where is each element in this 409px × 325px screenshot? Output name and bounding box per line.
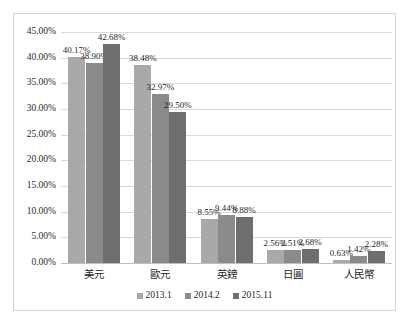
gridline (61, 263, 392, 264)
y-axis-tick-label: 20.00% (27, 156, 56, 166)
legend-swatch-icon (185, 293, 191, 299)
y-axis-tick-label: 40.00% (27, 53, 56, 63)
y-axis-tick-label: 0.00% (31, 258, 56, 268)
bar[interactable] (368, 251, 385, 263)
chart-plot-wrapper: 0.00%5.00%10.00%15.00%20.00%25.00%30.00%… (14, 14, 395, 310)
y-axis-tick-label: 35.00% (27, 79, 56, 89)
y-axis-tick-label: 5.00% (31, 233, 56, 243)
legend-item[interactable]: 2015.11 (233, 291, 273, 301)
plot-area: 0.00%5.00%10.00%15.00%20.00%25.00%30.00%… (61, 32, 392, 263)
y-axis-tick-label: 45.00% (27, 27, 56, 37)
category-label-2: 英鎊 (217, 269, 237, 280)
bar[interactable] (350, 256, 367, 263)
legend-label: 2014.2 (194, 291, 220, 301)
y-axis-tick-label: 15.00% (27, 181, 56, 191)
category-label-3: 日圓 (283, 269, 303, 280)
legend-label: 2013.1 (146, 291, 172, 301)
y-axis-tick-label: 30.00% (27, 104, 56, 114)
legend-item[interactable]: 2014.2 (185, 291, 220, 301)
chart-container: 0.00%5.00%10.00%15.00%20.00%25.00%30.00%… (13, 13, 396, 311)
bar-value-label: 2.28% (365, 240, 388, 249)
y-axis-tick-label: 25.00% (27, 130, 56, 140)
legend-label: 2015.11 (242, 291, 273, 301)
bar-group: 0.63%1.42%2.28% (61, 32, 392, 263)
bars-layer: 40.17%38.90%42.68%38.48%32.97%29.50%8.55… (61, 32, 392, 263)
category-label-4: 人民幣 (344, 269, 374, 280)
chart-legend: 2013.12014.22015.11 (14, 291, 395, 301)
legend-item[interactable]: 2013.1 (137, 291, 172, 301)
category-label-0: 美元 (84, 269, 104, 280)
bar[interactable] (333, 260, 350, 263)
legend-swatch-icon (137, 293, 143, 299)
category-label-1: 歐元 (150, 269, 170, 280)
legend-swatch-icon (233, 293, 239, 299)
y-axis-tick-label: 10.00% (27, 207, 56, 217)
